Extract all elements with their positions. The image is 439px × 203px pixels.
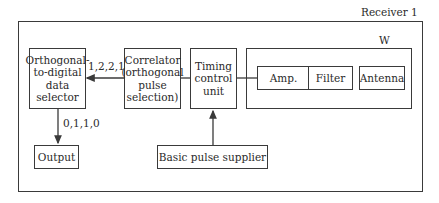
- amp-block: Amp.: [257, 66, 310, 90]
- filter-block: Filter: [308, 66, 353, 90]
- basic-pulse-supplier-block: Basic pulse supplier: [157, 145, 268, 169]
- timing-control-unit-block: Timing control unit: [190, 48, 237, 109]
- correlator-block: Correlator (orthogonal pulse selection): [124, 48, 181, 109]
- selector-to-output-signal: 0,1,1,0: [63, 117, 100, 129]
- output-block: Output: [34, 145, 79, 169]
- orthogonal-to-digital-selector-block: Orthogonal- to-digital data selector: [29, 48, 86, 109]
- antenna-block: Antenna: [359, 66, 405, 90]
- correlator-to-selector-signal: 1,2,2,1: [88, 60, 125, 72]
